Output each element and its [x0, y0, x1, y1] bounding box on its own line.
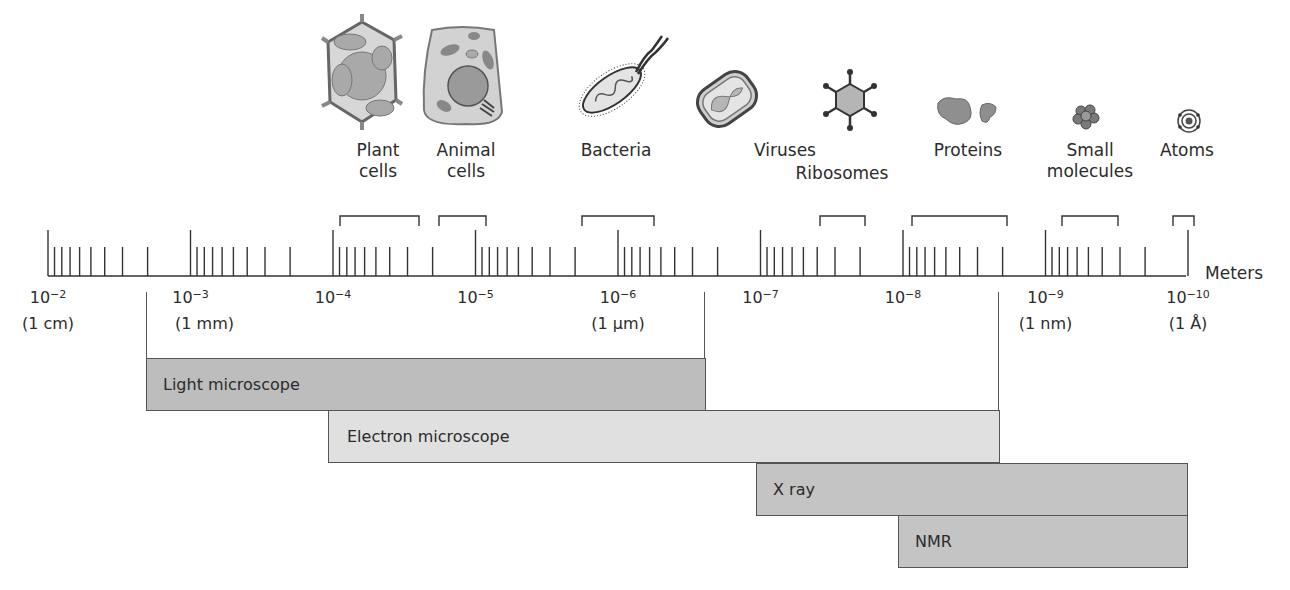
tick-label: 10−5	[457, 288, 494, 308]
nmr-bar: NMR	[898, 515, 1188, 568]
tick-label: 10−2	[30, 288, 67, 308]
light-microscope-bar: Light microscope	[146, 358, 706, 411]
size-scale-diagram: Plantcells Animalcells Bacteria Viruses …	[0, 0, 1290, 590]
tick-sublabel: (1 Å)	[1169, 314, 1208, 334]
log-scale-ruler	[0, 0, 1290, 300]
tick-label: 10−4	[315, 288, 352, 308]
x-ray-bar: X ray	[756, 463, 1188, 516]
tick-label: 10−3	[172, 288, 209, 308]
tick-label: 10−10	[1166, 288, 1210, 308]
tick-sublabel: (1 nm)	[1019, 314, 1072, 334]
tick-label: 10−9	[1027, 288, 1064, 308]
x-ray-label: X ray	[773, 480, 815, 499]
tick-label: 10−8	[885, 288, 922, 308]
tick-sublabel: (1 cm)	[22, 314, 74, 334]
tick-sublabel: (1 mm)	[175, 314, 234, 334]
tick-label: 10−7	[742, 288, 779, 308]
light-microscope-right-connector	[704, 292, 705, 358]
size-range-brackets	[340, 216, 1194, 226]
electron-microscope-bar: Electron microscope	[328, 410, 1000, 463]
tick-label: 10−6	[600, 288, 637, 308]
light-microscope-label: Light microscope	[163, 375, 300, 394]
nmr-label: NMR	[915, 532, 952, 551]
light-microscope-left-connector	[146, 292, 147, 358]
electron-microscope-right-connector	[998, 292, 999, 410]
tick-sublabel: (1 µm)	[591, 314, 645, 334]
electron-microscope-label: Electron microscope	[347, 427, 509, 446]
axis-unit-label: Meters	[1205, 263, 1263, 283]
